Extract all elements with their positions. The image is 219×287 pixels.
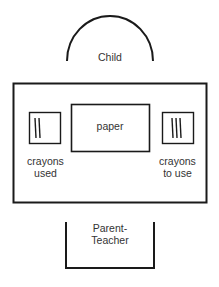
- crayons-to-use-label: crayons to use: [150, 155, 205, 179]
- crayon-icon: [172, 118, 173, 138]
- crayons-used-label-line2: used: [18, 167, 73, 179]
- parent-teacher-label-line1: Parent-: [80, 222, 140, 234]
- crayons-to-use-label-line2: to use: [150, 167, 205, 179]
- crayons-used-box: [30, 113, 61, 144]
- crayons-used-label-line1: crayons: [18, 155, 73, 167]
- crayons-to-use-label-line1: crayons: [150, 155, 205, 167]
- crayons-to-use-box: [163, 113, 194, 144]
- child-label: Child: [90, 51, 130, 63]
- crayon-icon: [39, 118, 40, 138]
- crayons-used-label: crayons used: [18, 155, 73, 179]
- crayon-icon: [180, 118, 181, 138]
- crayon-icon: [35, 118, 36, 138]
- crayon-icon: [176, 118, 177, 138]
- paper-label: paper: [80, 120, 140, 132]
- parent-teacher-label-line2: Teacher: [80, 234, 140, 246]
- parent-teacher-label: Parent- Teacher: [80, 222, 140, 246]
